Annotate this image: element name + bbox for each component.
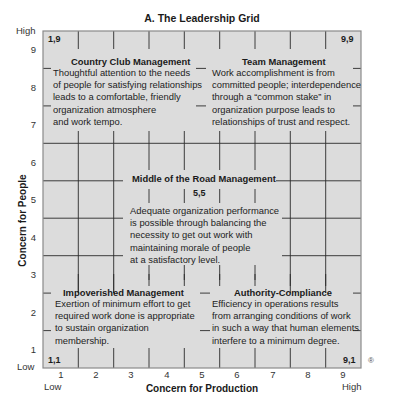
- y-axis-label: Concern for People: [17, 151, 28, 291]
- style-country-club: Country Club Management Thoughtful atten…: [53, 56, 202, 128]
- registered-trademark-mark: ®: [368, 356, 374, 365]
- style-team: Team Management Work accomplishment is f…: [212, 56, 361, 128]
- team-title: Team Management: [212, 56, 361, 67]
- authority-compliance-title: Authority-Compliance: [212, 287, 359, 298]
- x-tick-6: 6: [227, 369, 247, 380]
- corner-label-9-9: 9,9: [341, 34, 354, 44]
- style-impoverished: Impoverished Management Exertion of mini…: [55, 287, 195, 347]
- x-axis-label: Concern for Production: [43, 383, 361, 394]
- x-tick-3: 3: [121, 369, 141, 380]
- impoverished-title: Impoverished Management: [55, 287, 195, 298]
- authority-compliance-description: Efficiency in operations results from ar…: [212, 298, 359, 347]
- style-middle-of-the-road-title-wrap: Middle of the Road Management: [132, 173, 276, 184]
- y-axis-high-label: High: [16, 25, 36, 36]
- impoverished-description: Exertion of minimum effort to get requir…: [55, 298, 195, 347]
- x-tick-1: 1: [51, 369, 71, 380]
- y-tick-1: 1: [20, 344, 36, 355]
- y-tick-8: 8: [20, 82, 36, 93]
- middle-of-road-description: Adequate organization performance is pos…: [130, 205, 279, 266]
- x-tick-9: 9: [333, 369, 353, 380]
- corner-label-5-5: 5,5: [193, 188, 206, 198]
- style-authority-compliance: Authority-Compliance Efficiency in opera…: [212, 287, 359, 347]
- corner-label-1-9: 1,9: [48, 34, 61, 44]
- y-tick-7: 7: [20, 119, 36, 130]
- y-axis-low-label: Low: [17, 361, 34, 372]
- x-tick-7: 7: [263, 369, 283, 380]
- y-tick-9: 9: [20, 44, 36, 55]
- x-tick-8: 8: [298, 369, 318, 380]
- x-tick-2: 2: [86, 369, 106, 380]
- corner-label-9-1: 9,1: [343, 355, 356, 365]
- country-club-description: Thoughtful attention to the needs of peo…: [53, 67, 202, 128]
- country-club-title: Country Club Management: [53, 56, 202, 67]
- x-tick-5: 5: [192, 369, 212, 380]
- y-tick-2: 2: [20, 307, 36, 318]
- team-description: Work accomplishment is from committed pe…: [212, 67, 361, 128]
- middle-of-road-title: Middle of the Road Management: [132, 173, 276, 184]
- corner-label-1-1: 1,1: [48, 355, 61, 365]
- x-tick-4: 4: [157, 369, 177, 380]
- style-middle-of-the-road: Adequate organization performance is pos…: [130, 205, 279, 266]
